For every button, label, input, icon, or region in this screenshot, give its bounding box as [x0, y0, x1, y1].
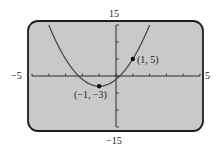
point-marker-1 — [131, 57, 135, 61]
vertex-point-label: (−1, −3) — [74, 90, 107, 100]
point-1-5-label: (1, 5) — [137, 55, 159, 65]
y-max-label: 15 — [109, 9, 119, 19]
point-marker-0 — [97, 84, 101, 88]
y-min-label: −15 — [106, 136, 122, 146]
graph-window — [0, 0, 218, 149]
x-min-label: −5 — [11, 71, 22, 81]
x-max-label: 5 — [205, 71, 210, 81]
